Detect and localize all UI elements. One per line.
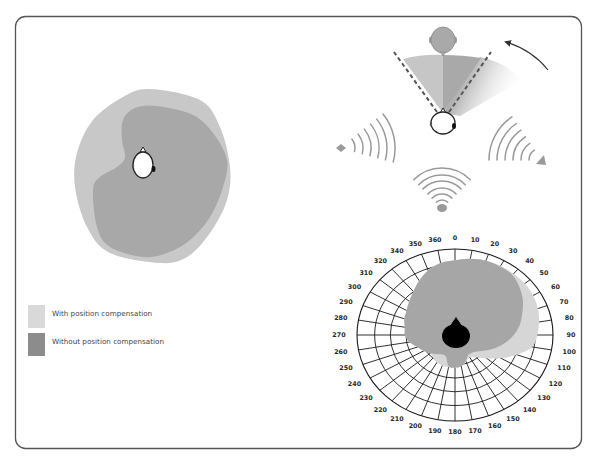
- angle-label: 10: [471, 236, 480, 244]
- angle-label: 260: [334, 348, 348, 356]
- ear-device-icon: [452, 123, 456, 129]
- angle-label: 360: [428, 236, 442, 244]
- angle-label: 210: [390, 415, 404, 423]
- legend-swatch-light: [28, 305, 45, 328]
- angle-label: 350: [409, 240, 423, 248]
- angle-label: 310: [359, 269, 373, 277]
- angle-label: 240: [348, 380, 362, 388]
- angle-label: 140: [523, 406, 537, 414]
- legend-label: With position compensation: [52, 309, 152, 318]
- angle-label: 130: [537, 394, 551, 402]
- angle-label: 220: [374, 406, 388, 414]
- angle-label: 340: [390, 247, 404, 255]
- angle-label: 100: [563, 348, 577, 356]
- angle-label: 250: [339, 364, 353, 372]
- angle-label: 280: [334, 314, 348, 322]
- angle-label: 180: [448, 428, 462, 436]
- angle-label: 230: [359, 394, 373, 402]
- angle-label: 110: [557, 364, 571, 372]
- angle-label: 120: [549, 380, 563, 388]
- ear-device-icon: [152, 166, 156, 172]
- angle-label: 30: [509, 247, 518, 255]
- angle-label: 150: [506, 415, 520, 423]
- legend-label: Without position compensation: [52, 337, 164, 346]
- angle-label: 170: [468, 427, 482, 435]
- bottom-speaker-icon: [437, 204, 447, 212]
- angle-label: 190: [428, 427, 442, 435]
- legend-swatch-dark: [28, 333, 45, 356]
- angle-label: 60: [551, 283, 560, 291]
- angle-label: 80: [565, 314, 574, 322]
- angle-label: 90: [567, 331, 576, 339]
- angle-label: 20: [490, 240, 499, 248]
- angle-label: 270: [332, 331, 346, 339]
- angle-label: 70: [560, 298, 569, 306]
- angle-label: 0: [453, 234, 458, 242]
- angle-label: 50: [539, 269, 548, 277]
- angle-label: 320: [374, 257, 388, 265]
- angle-label: 300: [348, 283, 362, 291]
- figure-canvas: With position compensation Without posit…: [0, 0, 594, 463]
- angle-label: 200: [409, 422, 423, 430]
- angle-label: 160: [488, 422, 502, 430]
- angle-label: 40: [525, 257, 534, 265]
- angle-label: 290: [339, 298, 353, 306]
